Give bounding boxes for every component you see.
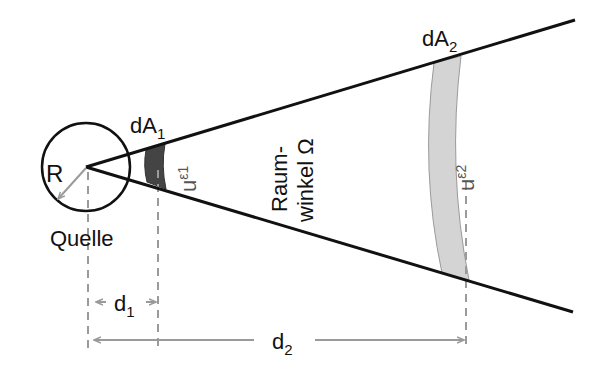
near-area-label: dA1 [130, 113, 165, 142]
near-area-band [145, 144, 166, 189]
solid-angle-label-line2: winkel Ω [293, 138, 318, 223]
near-energy-label: uε1 [175, 166, 201, 192]
source-name-label: Quelle [50, 226, 114, 251]
distance-far-label: d2 [272, 329, 293, 358]
solid-angle-label-line1: Raum- [267, 146, 292, 212]
cone-upper-edge [86, 20, 575, 167]
source-radius-label: R [46, 160, 63, 187]
cone-lower-edge [86, 167, 573, 312]
far-area-label: dA2 [422, 26, 457, 55]
far-energy-label: uε2 [453, 165, 479, 191]
distance-near-label: d1 [114, 291, 135, 320]
solid-angle-diagram: R Quelle dA1 dA2 uε1 uε2 Raum- winkel Ω … [0, 0, 607, 376]
